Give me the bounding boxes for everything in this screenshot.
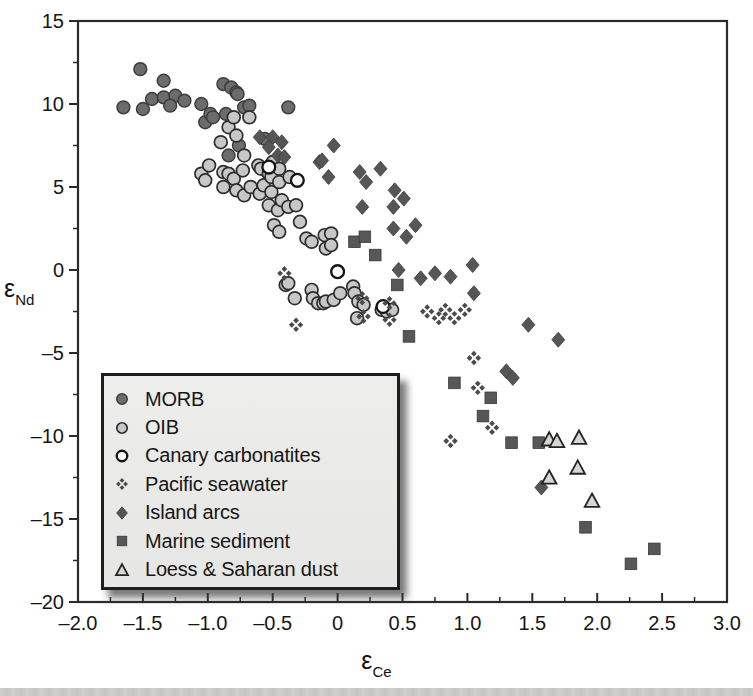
legend-item-label: MORB (145, 388, 204, 411)
svg-text:–10: –10 (31, 425, 64, 447)
svg-text:–0.5: –0.5 (253, 612, 292, 634)
svg-text:15: 15 (42, 10, 64, 32)
legend-item-label: Loess & Saharan dust (145, 558, 338, 581)
legend-item-marine-sediment: Marine sediment (111, 527, 397, 555)
svg-text:–2.0: –2.0 (59, 612, 98, 634)
svg-text:2.0: 2.0 (583, 612, 611, 634)
svg-text:1.0: 1.0 (453, 612, 481, 634)
y-axis-subscript: Nd (15, 291, 34, 308)
loess-saharan-dust-marker-icon (111, 559, 133, 581)
legend-item-label: OIB (145, 416, 179, 439)
y-axis-label: εNd (4, 276, 34, 304)
legend-item-label: Pacific seawater (145, 473, 287, 496)
svg-text:10: 10 (42, 93, 64, 115)
legend-item-canary-carbonatites: Canary carbonatites (111, 442, 397, 470)
svg-text:–15: –15 (31, 508, 64, 530)
legend-item-loess-saharan-dust: Loess & Saharan dust (111, 555, 397, 583)
morb-marker-icon (111, 388, 133, 410)
svg-text:0: 0 (53, 259, 64, 281)
svg-text:1.5: 1.5 (518, 612, 546, 634)
svg-text:0.5: 0.5 (389, 612, 417, 634)
figure-canvas: –2.0–1.5–1.0–0.500.51.01.52.02.53.015105… (0, 0, 753, 696)
legend-item-label: Island arcs (145, 501, 240, 524)
epsilon-symbol: ε (4, 274, 15, 302)
svg-text:5: 5 (53, 176, 64, 198)
marine-sediment-marker-icon (111, 530, 133, 552)
legend-item-oib: OIB (111, 413, 397, 441)
legend: MORBOIBCanary carbonatitesPacific seawat… (101, 373, 400, 590)
legend-item-label: Canary carbonatites (145, 444, 320, 467)
page-edge-strip (0, 688, 753, 696)
series-loess-saharan-dust (542, 430, 599, 506)
x-axis-subscript: Ce (372, 663, 391, 680)
oib-marker-icon (111, 417, 133, 439)
svg-text:–1.5: –1.5 (123, 612, 162, 634)
legend-item-island-arcs: Island arcs (111, 499, 397, 527)
canary-carbonatites-marker-icon (111, 445, 133, 467)
island-arcs-marker-icon (111, 502, 133, 524)
pacific-seawater-marker-icon (111, 473, 133, 495)
legend-item-pacific-seawater: Pacific seawater (111, 470, 397, 498)
scatter-plot: –2.0–1.5–1.0–0.500.51.01.52.02.53.015105… (0, 0, 753, 696)
svg-text:2.5: 2.5 (648, 612, 676, 634)
svg-text:–5: –5 (42, 342, 64, 364)
x-axis-label: εCe (0, 648, 753, 676)
svg-text:3.0: 3.0 (713, 612, 741, 634)
epsilon-symbol: ε (361, 646, 372, 674)
legend-item-label: Marine sediment (145, 530, 290, 553)
series-oib (195, 111, 399, 325)
svg-text:0: 0 (332, 612, 343, 634)
svg-text:–20: –20 (31, 591, 64, 613)
legend-item-morb: MORB (111, 385, 397, 413)
svg-text:–1.0: –1.0 (188, 612, 227, 634)
